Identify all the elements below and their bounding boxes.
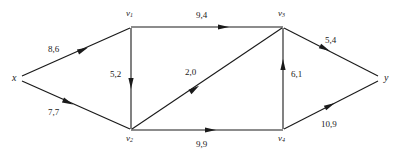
- flow-network-diagram: x v1 v2 v3 v4 y 8,6 7,7 9,4 5,2 2,0 9,9 …: [0, 0, 399, 158]
- arrowhead-v4-y: [324, 101, 336, 111]
- arrowhead-x-v2: [62, 98, 74, 107]
- node-label-v1: v1: [126, 9, 133, 18]
- edge-label-x-v1: 8,6: [48, 45, 59, 54]
- arrowhead-v1-v2: [128, 78, 133, 89]
- edge-label-v2-v4: 9,9: [196, 140, 207, 149]
- edge-label-v3-y: 5,4: [325, 36, 336, 45]
- arrowhead-v2-v3: [189, 84, 201, 94]
- edge-label-v4-y: 10,9: [321, 120, 337, 129]
- arrowhead-v2-v4: [205, 127, 216, 132]
- edge-label-x-v2: 7,7: [48, 108, 59, 117]
- edge-line-v2-v3: [132, 28, 282, 129]
- node-label-v2-sub: 2: [130, 137, 133, 143]
- node-label-x: x: [12, 73, 16, 83]
- node-label-v2: v2: [126, 134, 133, 143]
- arrowhead-v1-v3: [218, 24, 229, 29]
- node-label-v3: v3: [278, 9, 285, 18]
- edge-label-v2-v3: 2,0: [185, 68, 196, 77]
- edge-label-v1-v3: 9,4: [196, 11, 207, 20]
- edge-line-x-v2: [22, 81, 130, 129]
- node-label-v3-sub: 3: [282, 12, 285, 18]
- edge-label-v1-v2: 5,2: [110, 70, 121, 79]
- node-label-v4-sub: 4: [282, 137, 285, 143]
- graph-canvas: [0, 0, 399, 158]
- node-label-y: y: [384, 73, 388, 83]
- node-label-v1-sub: 1: [130, 12, 133, 18]
- arrowhead-v4-v3: [280, 59, 285, 70]
- arrowhead-v3-y: [319, 44, 331, 54]
- node-label-v4: v4: [278, 134, 285, 143]
- edge-label-v4-v3: 6,1: [291, 70, 302, 79]
